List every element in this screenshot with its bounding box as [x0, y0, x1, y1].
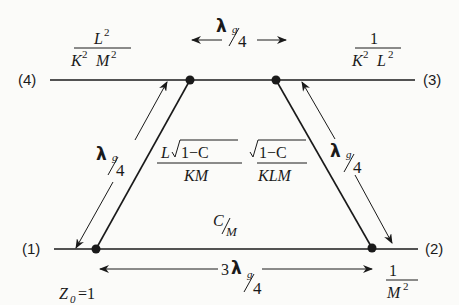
svg-text:KM: KM [183, 167, 210, 184]
port-2-label: (2) [425, 240, 443, 257]
svg-text:C: C [213, 212, 224, 229]
svg-text:KLM: KLM [257, 167, 293, 184]
svg-text:2: 2 [388, 48, 394, 60]
svg-text:1−C: 1−C [259, 144, 287, 161]
svg-text:4: 4 [238, 32, 247, 51]
port-3-impedance: 1 K 2 L 2 [351, 30, 401, 69]
bottom-branch-impedance: C M [213, 212, 238, 239]
svg-text:2: 2 [111, 48, 117, 60]
svg-text:2: 2 [82, 48, 88, 60]
svg-text:λ: λ [216, 16, 227, 36]
bottom-dimension-arrow: 3 λ g 4 [100, 258, 372, 298]
svg-text:L: L [376, 52, 386, 69]
svg-text:M: M [95, 52, 111, 69]
port-1-label: (1) [22, 240, 40, 257]
svg-text:L: L [93, 30, 103, 47]
svg-text:2: 2 [363, 48, 369, 60]
port-1-impedance: Z 0 =1 [59, 285, 95, 305]
left-branch-line [96, 80, 190, 249]
svg-text:λ: λ [96, 144, 107, 164]
hybrid-coupler-diagram: (4) (3) (1) (2) L 2 K 2 M 2 1 K 2 L 2 1 … [0, 0, 459, 305]
junction-dot-bottom-right [368, 244, 377, 253]
svg-text:1−C: 1−C [181, 144, 209, 161]
port-4-impedance: L 2 K 2 M 2 [70, 26, 131, 69]
svg-text:4: 4 [353, 158, 362, 177]
svg-text:0: 0 [70, 293, 76, 305]
svg-text:M: M [225, 224, 238, 239]
junction-dot-top-left [186, 76, 195, 85]
junction-dot-bottom-left [92, 245, 101, 254]
port-3-label: (3) [423, 71, 441, 88]
svg-text:λ: λ [231, 258, 242, 278]
svg-text:1: 1 [389, 262, 397, 279]
left-branch-impedance: L 1−C KM [157, 140, 242, 184]
svg-text:M: M [386, 284, 402, 301]
junction-dot-top-right [272, 76, 281, 85]
svg-text:3: 3 [221, 261, 229, 278]
svg-text:2: 2 [104, 26, 110, 38]
right-branch-impedance: 1−C KLM [250, 140, 307, 184]
svg-text:4: 4 [116, 161, 125, 180]
svg-text:1: 1 [370, 30, 378, 47]
svg-text:λ: λ [330, 141, 341, 161]
svg-text:Z: Z [59, 285, 69, 302]
svg-text:L: L [160, 144, 170, 161]
top-dimension-arrow: λ g 4 [192, 16, 286, 51]
right-dimension-arrow: λ g 4 [302, 82, 392, 243]
left-dimension-arrow: λ g 4 [76, 82, 167, 248]
svg-text:4: 4 [253, 279, 262, 298]
svg-text:2: 2 [403, 280, 409, 292]
port-4-label: (4) [18, 71, 36, 88]
port-2-impedance: 1 M 2 [386, 262, 418, 301]
svg-text:=1: =1 [78, 285, 95, 302]
